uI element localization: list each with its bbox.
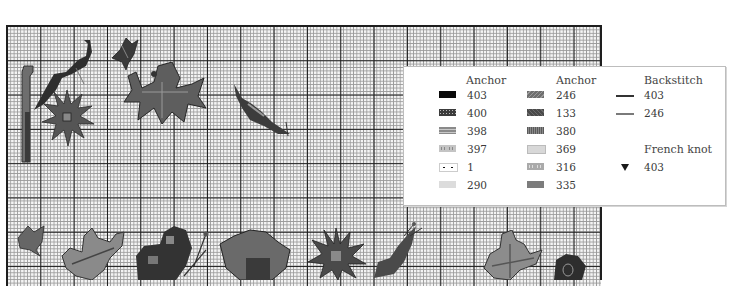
legend-row-316: 316	[494, 160, 594, 174]
sunflower-motif	[40, 88, 94, 148]
backstitch-row-246: 246	[594, 106, 704, 120]
oak-leaf-motif	[58, 226, 128, 280]
violet-motif	[550, 252, 590, 280]
legend-row-369: 369	[494, 142, 594, 156]
anchor-header-2: Anchor	[556, 74, 596, 87]
backstitch-line-icon	[616, 113, 634, 115]
legend-row-290: 290	[404, 178, 494, 192]
french-knot-icon	[621, 164, 629, 171]
swatch-hatch-icon	[527, 127, 544, 134]
legend-row-133: 133	[494, 106, 594, 120]
swatch-dots-grid-icon	[439, 109, 456, 116]
backstitch-row-403: 403	[594, 88, 704, 102]
swatch-triangles-icon	[439, 181, 456, 188]
legend-row-1: 1	[404, 160, 494, 174]
swatch-circles-icon	[439, 145, 456, 152]
snail-leaf-motif	[370, 222, 430, 280]
maple-leaf-motif	[480, 230, 550, 280]
legend-row-403: 403	[404, 88, 494, 102]
swatch-crosses-icon	[527, 181, 544, 188]
legend-row-397: 397	[404, 142, 494, 156]
lily-flower-motif	[118, 62, 210, 130]
legend-row-400: 400	[404, 106, 494, 120]
rosebud-motif	[14, 222, 50, 258]
swatch-solid-icon	[439, 91, 456, 98]
pansy-motif	[216, 228, 296, 280]
swatch-slashes-icon	[527, 91, 544, 98]
backstitch-line-icon	[616, 95, 634, 97]
legend-row-380: 380	[494, 124, 594, 138]
swatch-double-dash-icon	[439, 127, 456, 134]
swatch-carets-icon	[527, 145, 546, 154]
daisy-motif	[306, 226, 366, 280]
backstitch-header: Backstitch	[644, 74, 703, 87]
swatch-backslashes-icon	[527, 109, 544, 116]
anchor-header-1: Anchor	[466, 74, 506, 87]
stitch-key-legend: Anchor Anchor Backstitch 403 400 398 397…	[403, 66, 726, 206]
french-knot-row-403: 403	[594, 160, 704, 174]
butterfly-motif	[134, 226, 214, 280]
legend-row-335: 335	[494, 178, 594, 192]
french-knot-header: French knot	[644, 143, 712, 156]
legend-row-246: 246	[494, 88, 594, 102]
curled-leaf-motif	[228, 80, 294, 140]
swatch-circles-icon	[527, 163, 544, 170]
legend-row-398: 398	[404, 124, 494, 138]
